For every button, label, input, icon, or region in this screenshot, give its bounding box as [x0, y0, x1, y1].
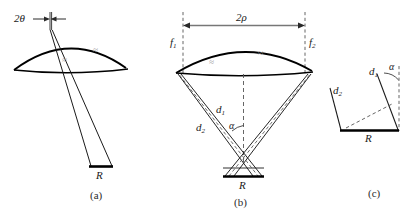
label-d2-c-sub: 2 [339, 90, 343, 98]
lens-upper-arc [14, 48, 126, 70]
hatch-mark-b-left: ≈ [209, 58, 214, 67]
label-R-c: R [365, 133, 372, 144]
two-theta-dimension [33, 12, 66, 30]
panel-a [14, 12, 128, 167]
beam-wedge-edges [50, 30, 112, 166]
label-d2-b-sub: 2 [202, 127, 206, 135]
label-two-rho: 2ρ [236, 12, 247, 23]
caption-a: (a) [90, 190, 102, 201]
alpha-arc-c [384, 73, 399, 80]
label-f2-sub: 2 [312, 42, 316, 50]
label-alpha-b: α [229, 121, 234, 131]
label-d1-c-sub: 1 [375, 71, 379, 79]
label-d1-b: d1 [216, 104, 225, 117]
label-d2-b: d2 [196, 122, 205, 135]
lens-upper-arc-b [176, 52, 312, 73]
ray-d1-c [377, 74, 399, 131]
label-d1-c: d1 [369, 66, 378, 79]
figure-svg [0, 0, 420, 215]
hatch-mark-a-left: ≈ [62, 56, 67, 65]
label-d1-b-sub: 1 [222, 109, 226, 117]
label-alpha-c: α [389, 62, 394, 72]
panel-b [176, 12, 313, 177]
caption-c: (c) [368, 188, 380, 199]
chord-dashed-c [346, 104, 392, 128]
two-rho-dimension [183, 22, 305, 28]
label-f1-sub: 1 [173, 42, 177, 50]
figure-container: ≈ ≈ ≈ ≈ 2θ R (a) 2ρ f1 f2 d1 d2 α R (b) … [0, 0, 420, 215]
lens-lower-arc-b [176, 72, 313, 76]
label-R-b: R [239, 180, 246, 191]
label-R-a: R [96, 170, 103, 181]
caption-b: (b) [234, 197, 247, 208]
hatch-mark-a-right: ≈ [93, 46, 98, 55]
hatch-mark-b-right: ≈ [258, 49, 263, 58]
label-f1: f1 [170, 37, 177, 50]
label-f2: f2 [309, 37, 316, 50]
label-two-theta: 2θ [14, 13, 25, 24]
panel-c [330, 66, 399, 131]
label-d2-c: d2 [333, 85, 342, 98]
